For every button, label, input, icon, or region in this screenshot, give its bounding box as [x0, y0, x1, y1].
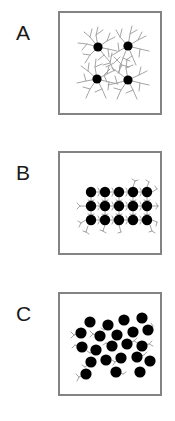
panel-b-label: B [16, 158, 46, 188]
panel-c-diagram [60, 294, 160, 394]
panel-c-box [58, 292, 162, 396]
panel-a-diagram [60, 13, 160, 113]
panel-a-label: A [16, 18, 46, 48]
panel-b-diagram [60, 153, 160, 253]
panel-c: C [0, 281, 175, 421]
panel-b-particles [86, 187, 152, 225]
panel-b-box [58, 151, 162, 255]
panel-a: A [0, 0, 175, 140]
panel-b: B [0, 140, 175, 280]
panel-a-ligands [77, 26, 149, 99]
figure-nanoparticle-assembly: A [0, 0, 175, 421]
panel-a-box [58, 11, 162, 115]
panel-c-label: C [16, 299, 46, 329]
panel-c-particles [75, 312, 155, 379]
